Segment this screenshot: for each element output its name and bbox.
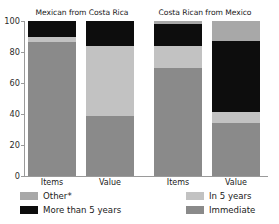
legend-item-in-5-years[interactable]: In 5 years	[186, 191, 252, 201]
bar-costarican-value[interactable]	[212, 21, 260, 176]
legend-swatch-in-5-years-icon	[186, 192, 204, 200]
stacked-bar-chart: Mexican from Costa Rica Costa Rican from…	[0, 0, 279, 224]
bar-segment-immediate[interactable]	[28, 42, 76, 176]
legend-label-immediate: Immediate	[209, 205, 255, 215]
panel-title-right: Costa Rican from Mexico	[150, 8, 260, 17]
legend-item-immediate[interactable]: Immediate	[186, 205, 255, 215]
plot-area	[24, 21, 268, 176]
y-tick-mark	[21, 176, 24, 177]
bar-costarican-items[interactable]	[154, 21, 202, 176]
bar-mexican-value[interactable]	[86, 21, 134, 176]
bar-segment-more-than-5-years[interactable]	[28, 21, 76, 37]
legend-item-other[interactable]: Other*	[20, 191, 72, 201]
bar-segment-more-than-5-years[interactable]	[154, 24, 202, 46]
bar-segment-in-5-years[interactable]	[154, 46, 202, 68]
x-tick-label-costarican-items: Items	[154, 178, 202, 187]
legend-swatch-other-icon	[20, 192, 38, 200]
y-tick-label: 40	[0, 109, 20, 119]
legend-label-in-5-years: In 5 years	[209, 191, 252, 201]
legend-swatch-immediate-icon	[186, 206, 204, 214]
panel-title-left: Mexican from Costa Rica	[28, 8, 136, 17]
bar-segment-in-5-years[interactable]	[86, 46, 134, 116]
bar-segment-immediate[interactable]	[154, 68, 202, 177]
legend-label-more-than-5-years: More than 5 years	[43, 205, 121, 215]
y-tick-label: 20	[0, 140, 20, 150]
bar-segment-immediate[interactable]	[86, 116, 134, 176]
x-tick-label-mexican-value: Value	[86, 178, 134, 187]
chart-legend: Other* More than 5 years In 5 years Imme…	[0, 191, 279, 224]
bar-segment-in-5-years[interactable]	[212, 112, 260, 123]
x-axis-line	[24, 176, 268, 177]
x-tick-label-costarican-value: Value	[212, 178, 260, 187]
bar-segment-more-than-5-years[interactable]	[212, 41, 260, 112]
legend-item-more-than-5-years[interactable]: More than 5 years	[20, 205, 121, 215]
y-tick-label: 100	[0, 16, 20, 26]
x-tick-label-mexican-items: Items	[28, 178, 76, 187]
y-tick-label: 80	[0, 47, 20, 57]
y-tick-label: 0	[0, 171, 20, 181]
bar-segment-immediate[interactable]	[212, 123, 260, 176]
bar-segment-more-than-5-years[interactable]	[86, 21, 134, 46]
legend-swatch-more-than-5-years-icon	[20, 206, 38, 214]
bar-mexican-items[interactable]	[28, 21, 76, 176]
y-tick-label: 60	[0, 78, 20, 88]
bar-segment-other[interactable]	[212, 21, 260, 41]
legend-label-other: Other*	[43, 191, 72, 201]
